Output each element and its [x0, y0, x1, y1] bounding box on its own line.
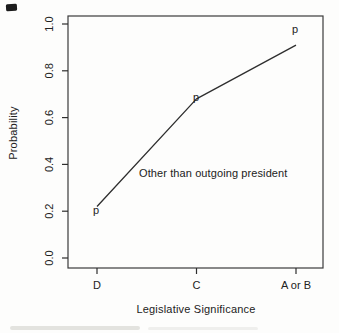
scan-artifact-mark — [6, 4, 17, 12]
y-tick-label: 0.0 — [43, 250, 55, 265]
x-axis-label: Legislative Significance — [136, 303, 255, 315]
y-tick-label: 0.4 — [43, 157, 55, 172]
x-tick-label: A or B — [281, 279, 311, 291]
data-point-marker: p — [292, 23, 298, 35]
probability-line — [97, 45, 296, 206]
probability-line-chart: 0.00.20.40.60.81.0 DCA or B ppp Other th… — [0, 0, 339, 333]
y-tick-label: 0.8 — [43, 63, 55, 78]
y-tick-label: 0.6 — [43, 110, 55, 125]
scan-artifact-smudge — [10, 326, 140, 330]
scan-artifact-smudge — [148, 327, 258, 330]
annotation-text: Other than outgoing president — [139, 167, 287, 179]
data-point-marker: p — [93, 204, 99, 216]
scanned-chart-page: 0.00.20.40.60.81.0 DCA or B ppp Other th… — [0, 0, 339, 333]
x-axis: DCA or B — [93, 268, 311, 291]
y-tick-label: 1.0 — [43, 16, 55, 31]
x-tick-label: C — [193, 279, 201, 291]
y-axis-label: Probability — [7, 106, 19, 160]
y-axis: 0.00.20.40.60.81.0 — [43, 16, 68, 265]
data-point-marker: p — [193, 91, 199, 103]
point-markers: ppp — [93, 23, 298, 215]
y-tick-label: 0.2 — [43, 204, 55, 219]
x-tick-label: D — [93, 279, 101, 291]
plot-area-border — [68, 16, 323, 268]
